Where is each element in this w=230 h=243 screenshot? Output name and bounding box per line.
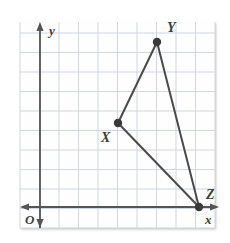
vertex-label-x: X <box>100 130 111 145</box>
origin-label: O <box>25 212 35 227</box>
vertex-label-z: Z <box>205 187 215 202</box>
vertex-point-y <box>153 38 161 46</box>
vertex-point-x <box>114 119 122 127</box>
y-axis-label: y <box>47 23 55 38</box>
x-axis-label: x <box>204 212 212 227</box>
vertex-label-y: Y <box>167 20 177 35</box>
vertex-point-z <box>195 203 203 211</box>
figure-root: y x O XYZ <box>0 0 230 243</box>
coordinate-plane-figure: y x O XYZ <box>0 0 230 243</box>
